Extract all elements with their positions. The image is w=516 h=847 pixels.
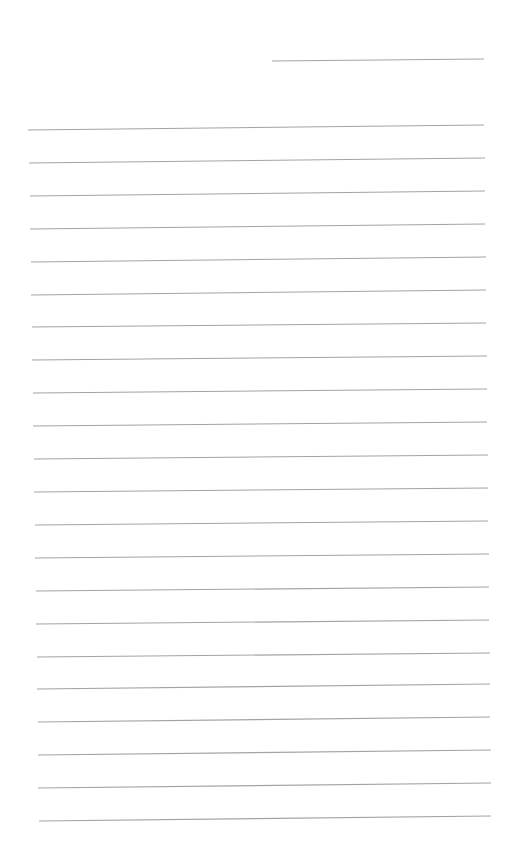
rule-line [35, 554, 489, 558]
rule-line [35, 521, 488, 525]
rule-line [33, 389, 487, 393]
rule-line [37, 653, 490, 657]
rule-line [38, 717, 490, 722]
header-rule-line [272, 59, 484, 61]
rule-line [32, 356, 487, 360]
rule-line [39, 816, 491, 821]
ruled-lines [0, 0, 516, 847]
rule-line [34, 488, 488, 492]
rule-line [38, 783, 491, 788]
lined-paper-page [0, 0, 516, 847]
rule-line [34, 455, 488, 459]
rule-line [33, 422, 487, 426]
rule-line [36, 587, 489, 591]
rule-line [32, 323, 486, 327]
rule-line [28, 125, 484, 130]
rule-line [31, 290, 486, 295]
rule-line [37, 684, 490, 689]
rule-line [30, 191, 485, 196]
rule-line [36, 620, 489, 624]
rule-line [38, 750, 491, 755]
rule-line [29, 158, 485, 163]
rule-line [31, 257, 486, 262]
rule-line [30, 224, 485, 229]
